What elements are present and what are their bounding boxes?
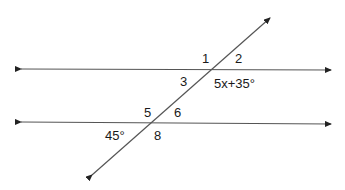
parallel-lines-diagram	[0, 0, 345, 190]
upper-parallel-line	[21, 69, 331, 70]
angle-label-3: 3	[180, 75, 187, 88]
angle-label-6: 6	[174, 106, 181, 119]
lower-parallel-line	[21, 122, 331, 124]
angle-label-8: 8	[154, 129, 161, 142]
angle-label-1: 1	[202, 52, 209, 65]
angle-label-5x-plus-35: 5x+35°	[214, 77, 255, 90]
angle-label-45-degrees: 45°	[105, 129, 125, 142]
transversal-line	[92, 18, 270, 175]
angle-label-2: 2	[235, 52, 242, 65]
angle-label-5: 5	[144, 106, 151, 119]
